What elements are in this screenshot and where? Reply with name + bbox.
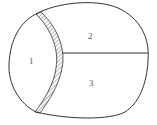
diagram: 1 2 3 <box>0 0 157 125</box>
region-label-1: 1 <box>29 56 34 66</box>
hatched-band <box>35 12 63 113</box>
region-label-2: 2 <box>88 31 93 41</box>
region-label-3: 3 <box>89 78 94 88</box>
